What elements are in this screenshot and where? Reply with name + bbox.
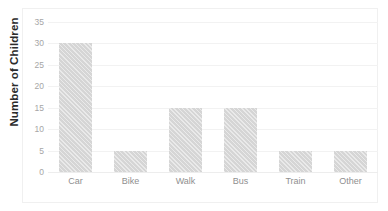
y-tick-label-25: 25: [22, 61, 44, 70]
y-axis-title: Number of Children: [8, 0, 20, 152]
x-tick-label-bike: Bike: [103, 176, 158, 187]
plot-area: [48, 22, 378, 172]
y-tick-label-30: 30: [22, 39, 44, 48]
bar-car: [59, 43, 92, 172]
x-tick-label-other: Other: [323, 176, 378, 187]
y-tick-label-10: 10: [22, 125, 44, 134]
bar-train: [279, 151, 312, 172]
bar-other: [334, 151, 367, 172]
bar-walk: [169, 108, 202, 172]
x-tick-label-car: Car: [48, 176, 103, 187]
x-tick-label-walk: Walk: [158, 176, 213, 187]
bar-bus: [224, 108, 257, 172]
bar-bike: [114, 151, 147, 172]
y-tick-label-5: 5: [22, 146, 44, 155]
x-tick-label-bus: Bus: [213, 176, 268, 187]
y-tick-label-0: 0: [22, 168, 44, 177]
y-tick-label-35: 35: [22, 18, 44, 27]
x-tick-label-train: Train: [268, 176, 323, 187]
bars-group: [48, 22, 378, 172]
y-tick-label-15: 15: [22, 103, 44, 112]
y-tick-label-20: 20: [22, 82, 44, 91]
gridline-0: [48, 172, 378, 173]
bar-chart: Number of Children 05101520253035 CarBik…: [0, 0, 388, 211]
y-axis-tick-labels: 05101520253035: [22, 22, 44, 172]
x-axis-tick-labels: CarBikeWalkBusTrainOther: [48, 176, 378, 196]
